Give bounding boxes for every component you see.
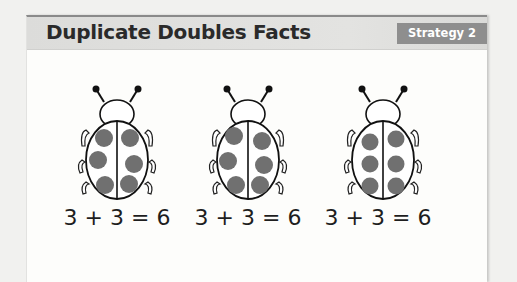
equation-3: 3 + 3 = 6 xyxy=(313,205,443,230)
strategy-badge: Strategy 2 xyxy=(397,23,487,44)
ladybug-3 xyxy=(328,72,438,200)
equation-2: 3 + 3 = 6 xyxy=(183,205,313,230)
card-title: Duplicate Doubles Facts xyxy=(46,20,311,44)
ladybug-2 xyxy=(193,72,303,200)
ladybug-1 xyxy=(62,72,172,200)
card-header: Duplicate Doubles Facts Strategy 2 xyxy=(27,17,487,50)
equation-1: 3 + 3 = 6 xyxy=(52,205,182,230)
